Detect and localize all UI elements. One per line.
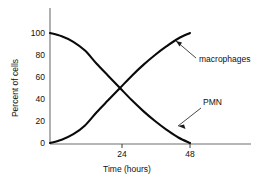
series-label-pmn: PMN: [203, 97, 222, 107]
y-axis-title: Percent of cells: [10, 59, 20, 117]
series-curve-macrophages: [50, 33, 190, 143]
x-axis-title: Time (hours): [103, 164, 151, 174]
y-tick-label-40: 40: [36, 94, 46, 104]
percent-of-cells-line-chart: 100 80 60 40 20 0 24 48 Time (hours) Per…: [0, 0, 263, 179]
chart-figure: 100 80 60 40 20 0 24 48 Time (hours) Per…: [0, 0, 263, 179]
y-tick-label-80: 80: [36, 50, 46, 60]
y-tick-label-0: 0: [40, 138, 45, 148]
series-label-macrophages: macrophages: [199, 54, 251, 64]
x-tick-label-24: 24: [117, 149, 127, 159]
y-tick-label-20: 20: [36, 116, 46, 126]
y-tick-label-100: 100: [31, 28, 45, 38]
y-tick-label-60: 60: [36, 72, 46, 82]
pmn-leader-line: [178, 108, 201, 126]
x-tick-label-48: 48: [185, 149, 195, 159]
